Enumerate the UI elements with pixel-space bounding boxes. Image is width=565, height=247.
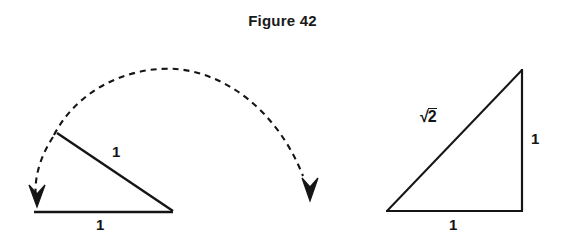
left-diagram-group	[29, 69, 318, 212]
left-base-length-label: 1	[96, 217, 104, 232]
figure-drawing-canvas	[0, 0, 565, 247]
rotation-arc-dashed-path	[36, 137, 53, 198]
sqrt-radicand: 2	[428, 108, 437, 125]
right-base-length-label: 1	[449, 217, 457, 232]
right-arrowhead-icon	[302, 178, 318, 201]
left-hypotenuse-length-label: 1	[112, 144, 120, 159]
right-diagram-group	[386, 69, 523, 211]
hypotenuse-sqrt2-label: √2	[420, 108, 437, 125]
rotation-arc-main-dashed-path	[54, 69, 303, 176]
left-arrowhead-icon	[29, 185, 45, 207]
right-vertical-length-label: 1	[531, 131, 539, 146]
figure-container: Figure 42 1 1 √2	[0, 0, 565, 247]
right-triangle-hypotenuse-segment	[387, 70, 522, 211]
